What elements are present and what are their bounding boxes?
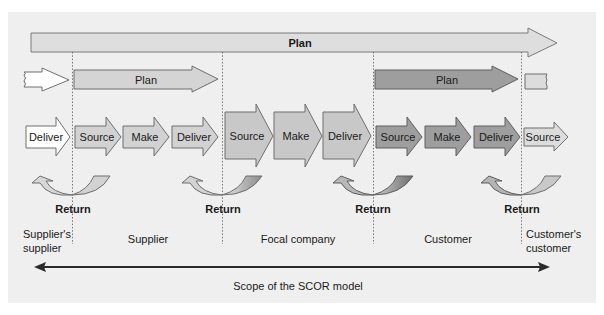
return-arrow-4 [481,176,561,195]
customers-customer-source-label: Source [526,131,561,143]
return-label-2: Return [205,203,240,215]
entity-suppliers-supplier: Supplier's supplier [23,227,71,255]
return-arrow-1 [32,176,110,195]
return-arrow-3 [333,176,413,195]
supplier-make-label: Make [132,131,159,143]
customer-source-label: Source [381,131,416,143]
scope-arrow [34,262,550,272]
return-arrow-2 [182,176,262,195]
suppliers-supplier-deliver-label: Deliver [29,131,63,143]
outgoing-plan-stub [525,74,547,89]
return-label-3: Return [355,203,390,215]
entity-focal-company: Focal company [261,233,336,245]
supplier-source-label: Source [80,131,115,143]
focal-make-label: Make [283,130,310,142]
return-label-4: Return [504,203,539,215]
return-label-1: Return [55,203,90,215]
customer-plan-label: Plan [436,74,458,86]
focal-deliver-label: Deliver [328,130,362,142]
top-plan-label: Plan [288,37,311,49]
focal-source-label: Source [230,130,265,142]
entity-supplier: Supplier [128,233,168,245]
entity-customers-customer: Customer's customer [526,227,581,255]
supplier-deliver-label: Deliver [177,131,211,143]
entity-customer: Customer [424,233,472,245]
incoming-plan-stub-arrow [24,68,69,91]
supplier-plan-label: Plan [135,74,157,86]
customer-deliver-label: Deliver [479,131,513,143]
customer-make-label: Make [434,131,461,143]
scope-label: Scope of the SCOR model [233,280,363,292]
